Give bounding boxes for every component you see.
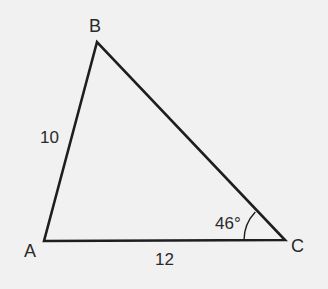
triangle-figure: B A C 10 12 46° xyxy=(0,0,328,289)
triangle-abc xyxy=(44,42,285,241)
side-label-ab: 10 xyxy=(40,128,59,147)
angle-arc-c xyxy=(244,212,255,240)
angle-label-c: 46° xyxy=(215,214,241,233)
triangle-diagram: B A C 10 12 46° xyxy=(0,0,328,289)
side-label-ac: 12 xyxy=(155,250,174,269)
vertex-label-b: B xyxy=(89,16,101,36)
vertex-label-a: A xyxy=(24,241,36,261)
vertex-label-c: C xyxy=(291,236,304,256)
